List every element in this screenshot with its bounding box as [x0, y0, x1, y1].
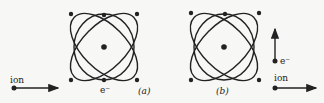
panel-b: (b) e⁻ ion [179, 2, 316, 96]
nucleus-a [101, 44, 107, 50]
panel-a: e⁻ ion (a) [10, 2, 151, 96]
ion-label-b: ion [274, 73, 288, 83]
electron-label-b: e⁻ [280, 56, 290, 66]
panel-label-b: (b) [216, 86, 229, 96]
atom-collision-diagram: e⁻ ion (a) (b) e⁻ ion [0, 0, 324, 103]
panel-label-a: (a) [138, 86, 151, 96]
electron-label-a: e⁻ [100, 85, 110, 95]
ion-label-a: ion [10, 75, 24, 85]
electron-b [273, 59, 278, 64]
nucleus-b [221, 44, 227, 50]
